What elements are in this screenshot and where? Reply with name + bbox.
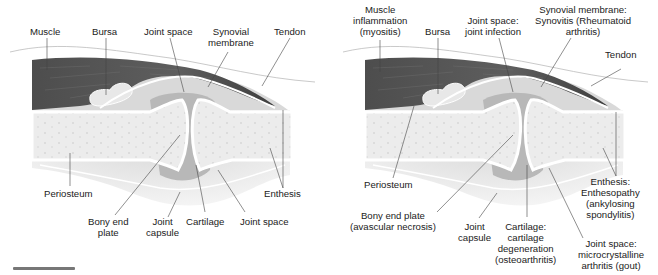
label-osteoarthritis: Cartilage: cartilage degeneration (osteo… (495, 221, 556, 265)
label-synovitis: Synovial membrane: Synovitis (Rheumatoid… (535, 4, 631, 37)
label-joint-capsule-right: Joint capsule (458, 221, 491, 243)
label-muscle: Muscle (30, 26, 60, 37)
label-bursa-right: Bursa (425, 26, 450, 37)
label-periosteum: Periosteum (44, 188, 93, 199)
label-joint-space-bottom: Joint space (240, 216, 289, 227)
label-enthesopathy: Enthesis: Enthesopathy (ankylosing spond… (581, 176, 640, 220)
label-joint-space-top: Joint space (144, 26, 193, 37)
left-bone-end (32, 100, 188, 170)
left-panel-normal-joint: Muscle Bursa Joint space Synovial membra… (0, 0, 329, 275)
label-bursa: Bursa (92, 26, 117, 37)
label-gout: Joint space: microcrystalline arthritis … (578, 238, 644, 271)
figure-footer-bar (13, 267, 75, 270)
label-cartilage: Cartilage (186, 216, 224, 227)
label-bony-end-plate: Bony end plate (88, 216, 129, 238)
label-joint-infection: Joint space: joint infection (465, 15, 521, 37)
label-tendon-right: Tendon (605, 49, 636, 60)
label-tendon: Tendon (274, 26, 305, 37)
label-synovial-membrane: Synovial membrane (208, 26, 254, 48)
label-enthesis: Enthesis (264, 188, 301, 199)
label-joint-capsule: Joint capsule (146, 216, 179, 238)
label-avascular-necrosis: Bony end plate (avascular necrosis) (350, 210, 436, 232)
right-panel-joint-pathology: Muscle inflammation (myositis) Bursa Joi… (329, 0, 658, 275)
joint-illustration-right (329, 0, 658, 275)
label-periosteum-right: Periosteum (364, 179, 413, 190)
label-muscle-inflammation: Muscle inflammation (myositis) (353, 4, 407, 37)
